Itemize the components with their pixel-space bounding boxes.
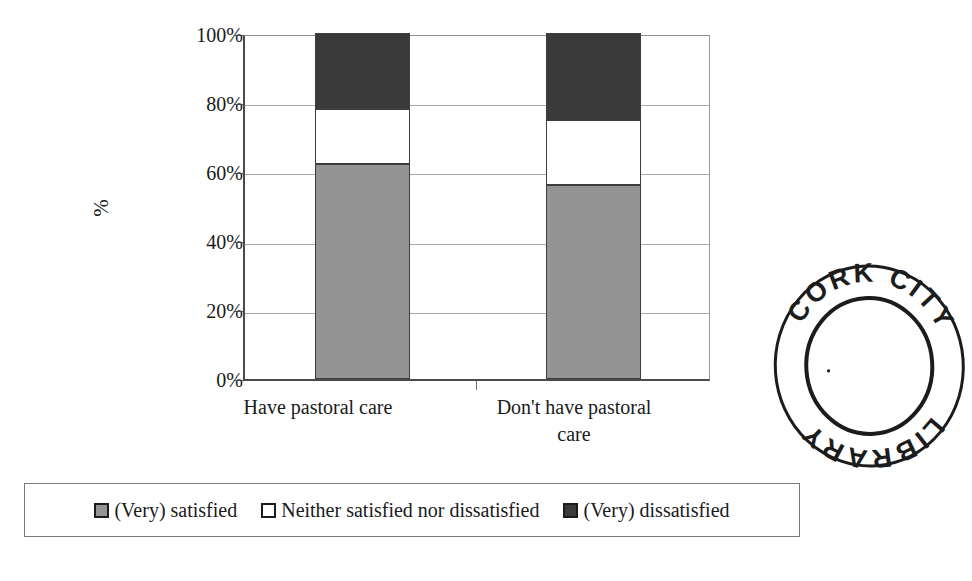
- legend-row: (Very) satisfied Neither satisfied nor d…: [25, 484, 799, 536]
- legend-item-neither[interactable]: Neither satisfied nor dissatisfied: [261, 499, 539, 521]
- y-tick-label: 0%: [165, 370, 243, 390]
- y-tick-label: 40%: [165, 232, 243, 252]
- legend-swatch-dissatisfied: [563, 503, 578, 518]
- x-label-dont-have-pastoral-care: Don't have pastoral care: [480, 394, 668, 448]
- chart-legend: (Very) satisfied Neither satisfied nor d…: [24, 483, 800, 537]
- bar-segment-neither[interactable]: [315, 109, 410, 164]
- legend-swatch-satisfied: [94, 503, 109, 518]
- legend-label-dissatisfied: (Very) dissatisfied: [583, 499, 729, 521]
- bar-segment-dissatisfied[interactable]: [546, 33, 641, 120]
- y-tick-40: 40%: [155, 232, 243, 252]
- y-tick-0: 0%: [155, 370, 243, 390]
- y-tick-60: 60%: [155, 163, 243, 183]
- bar-segment-dissatisfied[interactable]: [315, 33, 410, 109]
- bar-segment-satisfied[interactable]: [315, 164, 410, 379]
- plot-area: [243, 35, 710, 381]
- y-tick-20: 20%: [155, 301, 243, 321]
- bar-segment-satisfied[interactable]: [546, 185, 641, 379]
- y-tick-label: 60%: [165, 163, 243, 183]
- x-axis-center-tick: [476, 381, 477, 390]
- y-tick-80: 80%: [155, 94, 243, 114]
- y-axis-title: %: [79, 191, 123, 225]
- y-tick-label: 80%: [165, 94, 243, 114]
- x-label-have-pastoral-care: Have pastoral care: [238, 394, 398, 421]
- library-stamp: CORK CITY LIBRARY: [758, 241, 972, 483]
- legend-label-satisfied: (Very) satisfied: [114, 499, 237, 521]
- legend-item-dissatisfied[interactable]: (Very) dissatisfied: [563, 499, 729, 521]
- svg-text:LIBRARY: LIBRARY: [794, 408, 953, 480]
- y-tick-label: 100%: [165, 25, 243, 45]
- bar-segment-neither[interactable]: [546, 120, 641, 186]
- legend-item-satisfied[interactable]: (Very) satisfied: [94, 499, 237, 521]
- legend-label-neither: Neither satisfied nor dissatisfied: [281, 499, 539, 521]
- chart-figure: % 100% 80% 60% 40% 20% 0%: [0, 0, 820, 560]
- y-tick-100: 100%: [155, 25, 243, 45]
- y-tick-label: 20%: [165, 301, 243, 321]
- legend-swatch-neither: [261, 503, 276, 518]
